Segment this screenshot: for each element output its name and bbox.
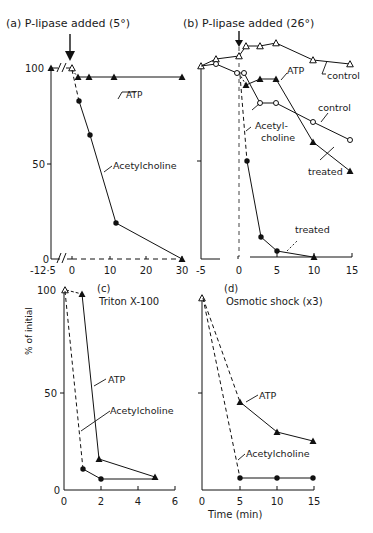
c-x2: 2 [98,496,104,507]
c-x0: 0 [61,496,67,507]
a-y0: 0 [43,254,49,265]
d-x15: 15 [308,496,321,507]
b-x-5: -5 [196,265,206,276]
panel-c-title: Triton X-100 [98,296,159,307]
x-axis-label: Time (min) [207,509,262,520]
d-ach-label: Acetylcholine [246,448,310,459]
arrow-icon [65,34,75,61]
figure: (a) P-lipase added (5°) 100 50 0 [0,0,373,533]
panel-b: (b) P-lipase added (26°) -5 0 5 10 15 [183,17,360,276]
panel-d: (d) Osmotic shock (x3) 0 5 10 15 Time (m… [198,283,323,520]
panel-a-title: (a) P-lipase added (5°) [6,17,130,30]
a-x30: 30 [176,265,189,276]
b-x15: 15 [346,265,359,276]
b-ach-label-1: Acetyl- [255,120,288,131]
b-series-atp-control [198,40,354,69]
b-x0: 0 [236,265,242,276]
arrow-icon [235,31,243,47]
c-ach-label: Acetylcholine [110,405,174,416]
b-atp-label: ATP [287,65,305,76]
panel-c-axes [60,290,175,490]
a-x20: 20 [140,265,153,276]
b-ach-treated-label: treated [295,224,330,235]
panel-d-axes [198,296,314,490]
c-y100: 100 [37,285,56,296]
d-x0: 0 [199,496,205,507]
a-x0: 0 [69,265,75,276]
a-y100: 100 [25,63,44,74]
panel-c: (c) Triton X-100 % of initial 100 50 0 0… [24,283,178,507]
panel-d-title: Osmotic shock (x3) [226,296,323,307]
panel-a: (a) P-lipase added (5°) 100 50 0 [6,17,188,276]
a-atp-label: ATP [126,90,143,100]
y-axis-label: % of initial [24,307,34,355]
b-x10: 10 [308,265,321,276]
c-series-acetylcholine [65,291,155,482]
c-y0: 0 [54,485,60,496]
d-series-atp [199,295,317,444]
b-ach-control-label: control [318,102,351,113]
b-atp-treated-label: treated [308,166,343,177]
c-atp-label: ATP [108,374,126,385]
d-x5: 5 [237,496,243,507]
d-atp-label: ATP [259,390,277,401]
a-x-12: -12·5 [30,265,56,276]
panel-b-title: (b) P-lipase added (26°) [183,17,314,30]
c-x6: 6 [172,496,178,507]
b-atp-control-label: control [327,70,360,81]
a-series-atp [48,65,186,81]
a-ach-label: Acetylcholine [113,160,177,171]
a-x10: 10 [104,265,117,276]
c-y50: 50 [44,388,57,399]
d-x10: 10 [271,496,284,507]
a-y50: 50 [32,159,45,170]
b-ach-label-2: choline [261,132,295,143]
c-x4: 4 [135,496,141,507]
panel-c-tag: (c) [97,283,110,294]
panel-d-tag: (d) [224,283,238,294]
b-x5: 5 [274,265,280,276]
